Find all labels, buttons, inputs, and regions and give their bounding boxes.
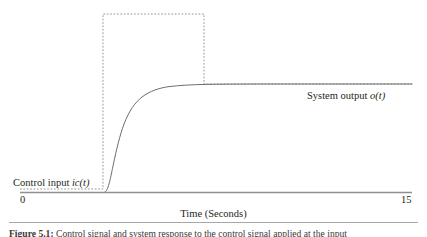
control-input-annotation-text: Control input [13,177,72,188]
figure-caption-number: Figure 5.1: [9,228,54,237]
control-input-annotation: Control input ic(t) [13,178,89,189]
x-axis-tick-label-max: 15 [401,195,412,206]
control-input-dashed-path [20,14,412,189]
figure-container: Control input ic(t) System output o(t) 0… [0,0,427,237]
figure-caption-text: Control signal and system response to th… [56,228,347,237]
plot-canvas [0,0,427,237]
system-output-annotation-math: o(t) [370,90,385,101]
x-axis-tick-label-min: 0 [20,195,25,206]
x-axis-title: Time (Seconds) [0,209,427,220]
control-input-annotation-math: ic(t) [72,177,90,188]
system-output-annotation: System output o(t) [307,91,385,102]
system-output-annotation-text: System output [307,90,370,101]
figure-caption: Figure 5.1: Control signal and system re… [9,228,419,237]
